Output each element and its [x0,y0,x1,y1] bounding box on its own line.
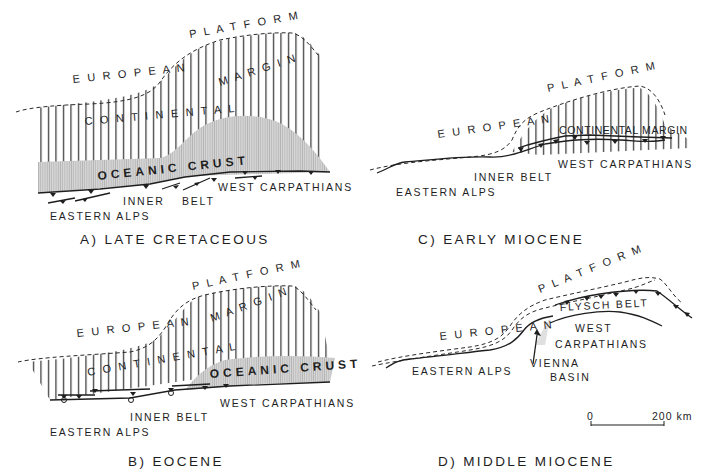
thrust-segment [75,193,110,201]
scale-bar: 0 200 km [587,410,692,426]
panel-d-middle-miocene: E U R O P E A N P L A T F O R M FLYSCH B… [372,242,692,469]
label-eastern-alps: EASTERN ALPS [50,426,150,438]
label-eastern-alps: EASTERN ALPS [412,365,512,377]
panel-title-c: C) EARLY MIOCENE [418,232,584,247]
panel-title-d: D) MIDDLE MIOCENE [438,454,615,469]
label-eastern-alps: EASTERN ALPS [50,210,150,222]
label-west-carpathians: WEST CARPATHIANS [558,158,693,170]
scale-start: 0 [587,410,593,422]
label-west-carpathians: WEST CARPATHIANS [220,397,355,409]
panel-c-early-miocene: E U R O P E A N P L A T F O R M CONTINEN… [370,59,693,247]
label-basin: BASIN [550,371,591,383]
label-platform: P L A T F O R M [536,242,644,295]
thrust-segment [235,176,262,178]
panel-title-b: B) EOCENE [128,454,224,469]
panel-b-eocene: E U R O P E A N P L A T F O R M C O N T … [18,257,362,469]
label-eastern-alps: EASTERN ALPS [396,186,496,198]
tectonic-evolution-figure: E U R O P E A N P L A T F O R M C O N T … [0,0,708,473]
label-inner: INNER [123,195,165,207]
label-carpathians: CARPATHIANS [555,338,648,350]
label-belt: BELT [182,195,215,207]
label-west: WEST [575,322,613,334]
label-vienna: VIENNA [530,357,580,369]
panel-title-a: A) LATE CRETACEOUS [80,232,270,247]
label-inner-belt: INNER BELT [474,171,553,183]
label-west-carpathians: WEST CARPATHIANS [218,181,353,193]
scale-end: 200 km [652,410,692,422]
label-inner-belt: INNER BELT [130,411,209,423]
label-flysch-belt: FLYSCH BELT [559,296,648,313]
panel-a-late-cretaceous: E U R O P E A N P L A T F O R M C O N T … [16,9,353,247]
label-continental-margin: CONTINENTAL MARGIN [559,124,688,136]
